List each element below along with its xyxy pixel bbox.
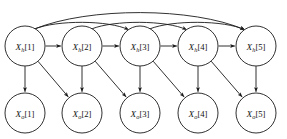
node-xo4[interactable]: Xo[4] bbox=[178, 93, 218, 133]
node-xo2[interactable]: Xo[2] bbox=[62, 93, 102, 133]
emission-arrow-xh2-to-xo3 bbox=[95, 61, 126, 96]
node-xh3[interactable]: Xh[3] bbox=[120, 26, 160, 66]
node-label-xo1: Xo[1] bbox=[15, 109, 35, 120]
node-layer: Xh[1]Xh[2]Xh[3]Xh[4]Xh[5]Xo[1]Xo[2]Xo[3]… bbox=[5, 26, 276, 133]
node-label-xh3: Xh[3] bbox=[130, 42, 150, 53]
node-xo1[interactable]: Xo[1] bbox=[5, 93, 45, 133]
emission-arrow-xh1-to-xo2 bbox=[38, 62, 68, 97]
node-xh5[interactable]: Xh[5] bbox=[236, 26, 276, 66]
node-xh4[interactable]: Xh[4] bbox=[178, 26, 218, 66]
node-label-xh1: Xh[1] bbox=[15, 42, 35, 53]
emission-arrow-xh4-to-xo5 bbox=[211, 61, 242, 96]
node-label-xo2: Xo[2] bbox=[72, 109, 92, 120]
node-label-xh2: Xh[2] bbox=[72, 42, 92, 53]
node-xo5[interactable]: Xo[5] bbox=[236, 93, 276, 133]
node-label-xh4: Xh[4] bbox=[188, 42, 208, 53]
node-xh1[interactable]: Xh[1] bbox=[5, 26, 45, 66]
node-label-xo4: Xo[4] bbox=[188, 109, 208, 120]
node-label-xh5: Xh[5] bbox=[246, 42, 266, 53]
node-label-xo5: Xo[5] bbox=[246, 109, 266, 120]
emission-arrow-xh3-to-xo4 bbox=[153, 61, 184, 96]
node-xh2[interactable]: Xh[2] bbox=[62, 26, 102, 66]
diagram-canvas: Xh[1]Xh[2]Xh[3]Xh[4]Xh[5]Xo[1]Xo[2]Xo[3]… bbox=[0, 0, 287, 139]
node-xo3[interactable]: Xo[3] bbox=[120, 93, 160, 133]
emission-arrows bbox=[25, 61, 256, 96]
bayesian-network-graph: Xh[1]Xh[2]Xh[3]Xh[4]Xh[5]Xo[1]Xo[2]Xo[3]… bbox=[0, 0, 287, 139]
node-label-xo3: Xo[3] bbox=[130, 109, 150, 120]
